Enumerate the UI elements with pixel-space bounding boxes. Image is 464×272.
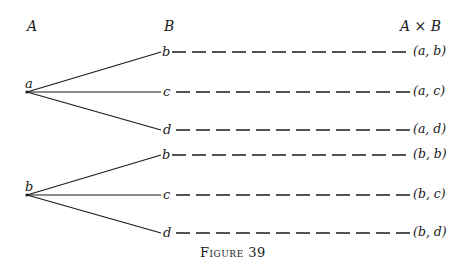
root-a-label: a [25, 77, 33, 90]
node-b-c-label: c [163, 188, 170, 201]
pair-a-b: (a, b) [413, 45, 446, 58]
pair-a-d: (a, d) [413, 123, 446, 136]
pair-a-c: (a, c) [413, 85, 445, 98]
pair-b-b: (b, b) [413, 148, 447, 161]
branch-b-b [27, 155, 161, 195]
dashed-connectors [172, 52, 412, 233]
root-b-branches [27, 155, 161, 233]
root-b-label: b [25, 180, 33, 193]
pair-b-c: (b, c) [413, 188, 446, 201]
node-a-b-label: b [162, 45, 170, 58]
branch-b-d [27, 195, 161, 233]
node-b-b-label: b [162, 148, 170, 161]
node-a-c-label: c [163, 85, 170, 98]
figure-caption: Figure 39 [200, 246, 266, 259]
branch-a-b [27, 52, 161, 92]
root-a-branches [27, 52, 161, 130]
tree-diagram [0, 0, 464, 272]
pair-b-d: (b, d) [413, 226, 447, 239]
header-set-a: A [27, 19, 37, 33]
node-b-d-label: d [163, 226, 171, 239]
branch-a-d [27, 92, 161, 130]
header-set-b: B [164, 19, 174, 33]
node-a-d-label: d [163, 123, 171, 136]
header-product: A × B [400, 19, 441, 33]
